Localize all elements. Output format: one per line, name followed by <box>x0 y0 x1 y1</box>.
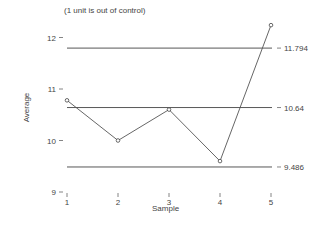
y-tick-label: 12 <box>47 34 56 43</box>
x-tick-label: 4 <box>218 198 223 207</box>
data-point-marker <box>65 99 69 103</box>
y-tick-label: 10 <box>47 137 56 146</box>
ucl-label: 11.794 <box>284 44 308 53</box>
x-tick-label: 5 <box>269 198 274 207</box>
data-point-marker <box>218 159 222 163</box>
y-tick-label: 11 <box>48 85 57 94</box>
data-point-marker <box>269 23 273 27</box>
y-tick-label: 9 <box>52 188 57 197</box>
average-series-line <box>67 25 271 161</box>
x-tick-label: 3 <box>167 198 172 207</box>
x-tick-label: 1 <box>65 198 70 207</box>
center-label: 10.64 <box>284 104 305 113</box>
data-point-marker <box>116 139 120 143</box>
control-chart: 91011121234511.79410.649.486 <box>0 0 320 228</box>
data-point-marker <box>167 108 171 112</box>
lcl-label: 9.486 <box>284 163 305 172</box>
x-tick-label: 2 <box>116 198 121 207</box>
